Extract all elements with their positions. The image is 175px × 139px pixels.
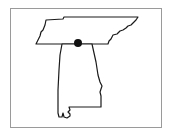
map-canvas xyxy=(0,0,175,139)
location-marker xyxy=(74,39,82,47)
alabama-outline xyxy=(58,44,102,118)
tennessee-outline xyxy=(36,17,138,44)
